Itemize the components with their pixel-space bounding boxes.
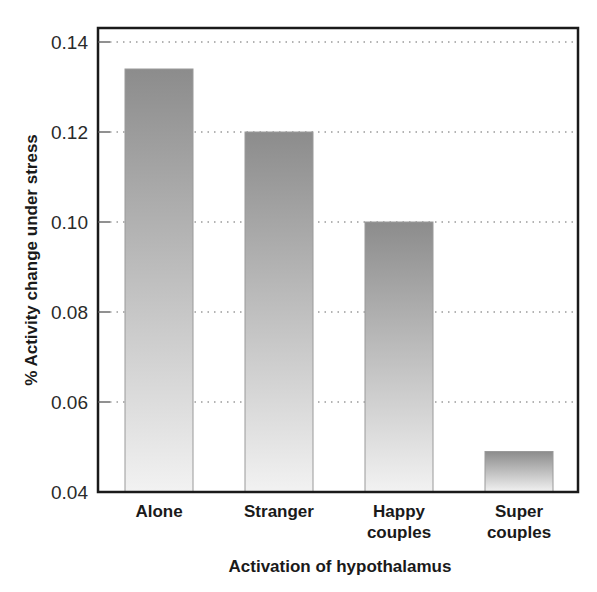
bar-alone <box>125 69 193 492</box>
y-tick-label: 0.10 <box>51 212 88 233</box>
x-tick-label: Supercouples <box>487 502 551 542</box>
y-axis-ticks: 0.040.060.080.100.120.14 <box>51 32 110 503</box>
x-tick-label: Stranger <box>244 502 314 521</box>
bar-chart: 0.040.060.080.100.120.14 AloneStrangerHa… <box>0 0 597 592</box>
y-tick-label: 0.04 <box>51 482 88 503</box>
y-tick-label: 0.14 <box>51 32 88 53</box>
x-axis-labels: AloneStrangerHappycouplesSupercouples <box>135 502 551 542</box>
y-tick-label: 0.06 <box>51 392 88 413</box>
y-tick-label: 0.12 <box>51 122 88 143</box>
bar-stranger <box>245 132 313 492</box>
bar-super-couples <box>485 452 553 493</box>
x-tick-label: Happycouples <box>367 502 431 542</box>
x-tick-label: Alone <box>135 502 182 521</box>
y-tick-label: 0.08 <box>51 302 88 323</box>
x-axis-title: Activation of hypothalamus <box>229 557 452 576</box>
bar-happy-couples <box>365 222 433 492</box>
y-axis-title: % Activity change under stress <box>22 134 41 386</box>
